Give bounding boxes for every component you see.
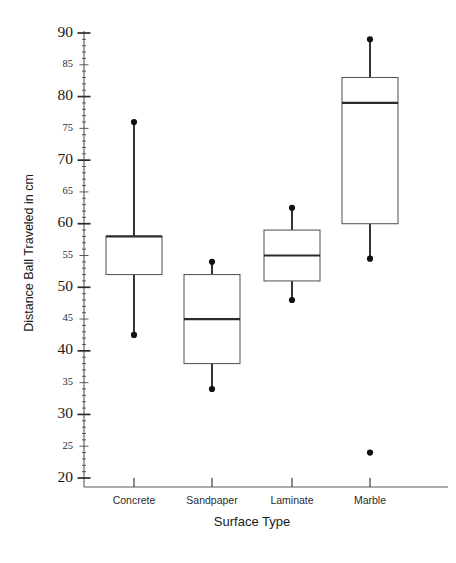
whisker-cap-upper: [367, 36, 373, 42]
x-category-label-laminate: Laminate: [270, 494, 313, 506]
box-marble: [342, 36, 398, 455]
box-body: [106, 236, 162, 274]
y-tick-label-minor: 85: [63, 58, 74, 69]
y-tick-label-major: 80: [58, 86, 74, 103]
box-sandpaper: [184, 259, 240, 392]
y-axis-tick-labels: 203040506070809025354555657585: [58, 23, 74, 485]
y-axis-title: Distance Ball Traveled in cm: [22, 174, 36, 332]
x-category-label-sandpaper: Sandpaper: [186, 494, 238, 506]
x-category-label-concrete: Concrete: [113, 494, 156, 506]
x-axis-title: Surface Type: [214, 514, 290, 529]
y-tick-label-minor: 45: [63, 312, 74, 323]
whisker-cap-lower: [367, 256, 373, 262]
y-tick-label-major: 90: [58, 23, 74, 40]
boxplot-chart: 203040506070809025354555657585 ConcreteS…: [0, 0, 456, 563]
y-tick-label-major: 60: [58, 213, 74, 230]
whisker-cap-lower: [209, 386, 215, 392]
x-axis-ticks: [134, 478, 370, 487]
y-tick-label-minor: 75: [63, 122, 74, 133]
y-tick-label-major: 70: [58, 150, 74, 167]
x-category-label-marble: Marble: [354, 494, 386, 506]
y-tick-label-major: 40: [58, 340, 74, 357]
box-plot-series: [106, 36, 398, 455]
y-tick-label-minor: 35: [63, 376, 74, 387]
x-axis-category-labels: ConcreteSandpaperLaminateMarble: [113, 494, 387, 506]
outlier-point: [367, 449, 373, 455]
box-laminate: [264, 205, 320, 303]
y-tick-label-major: 50: [58, 277, 74, 294]
whisker-cap-lower: [289, 297, 295, 303]
whisker-cap-upper: [209, 259, 215, 265]
y-tick-label-minor: 25: [63, 440, 74, 451]
y-tick-label-minor: 55: [63, 249, 74, 260]
y-tick-label-major: 20: [58, 468, 74, 485]
box-body: [342, 78, 398, 224]
y-tick-label-minor: 65: [63, 185, 74, 196]
boxplot-svg: 203040506070809025354555657585 ConcreteS…: [0, 0, 456, 563]
whisker-cap-upper: [289, 205, 295, 211]
y-tick-label-major: 30: [58, 404, 74, 421]
box-concrete: [106, 119, 162, 338]
whisker-cap-upper: [131, 119, 137, 125]
whisker-cap-lower: [131, 332, 137, 338]
